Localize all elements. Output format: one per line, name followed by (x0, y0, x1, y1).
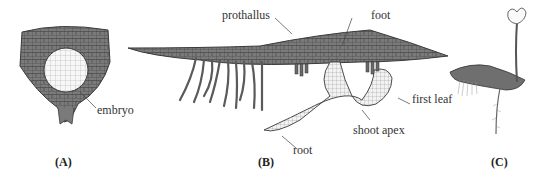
label-first-leaf: first leaf (412, 93, 452, 105)
figure-drawing (0, 0, 543, 179)
label-root: root (293, 144, 312, 156)
panel-label-a: (A) (55, 156, 72, 168)
label-foot: foot (371, 9, 390, 21)
panel-c-sporophyte (450, 8, 526, 134)
label-prothallus: prothallus (222, 9, 270, 21)
label-embryo: embryo (97, 104, 134, 116)
panel-label-b: (B) (258, 156, 274, 168)
label-shoot-apex: shoot apex (353, 124, 405, 136)
panel-label-c: (C) (491, 156, 508, 168)
